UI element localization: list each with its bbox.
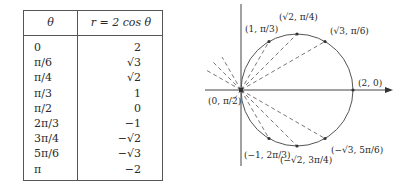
label-sqrt3-pi-6: (√3, π/6) bbox=[330, 26, 369, 36]
label-1-pi-3: (1, π/3) bbox=[245, 24, 278, 34]
label-negsqrt3-5pi-6: (−√3, 5π/6) bbox=[331, 145, 383, 155]
point-negsqrt2-3pi-4-dot bbox=[295, 144, 298, 147]
point-negsqrt3-5pi-6-dot bbox=[323, 137, 326, 140]
polar-graph: (1, π/3) (√2, π/4) (√3, π/6) (2, 0) (0, … bbox=[0, 0, 410, 189]
point-sqrt2-pi-4-dot bbox=[295, 32, 298, 35]
point-neg1-2pi-3-dot bbox=[267, 137, 270, 140]
label-sqrt2-pi-4: (√2, π/4) bbox=[279, 12, 318, 22]
axis-arrow-icon bbox=[385, 87, 393, 93]
label-negsqrt2-3pi-4: (−√2, 3π/4) bbox=[280, 155, 332, 165]
label-0-pi-2: (0, π/2) bbox=[208, 96, 241, 106]
point-2-0-dot bbox=[351, 88, 354, 91]
point-1-pi-3-dot bbox=[267, 40, 270, 43]
origin-marker bbox=[239, 88, 243, 92]
point-sqrt3-pi-6-dot bbox=[323, 40, 326, 43]
label-2-0: (2, 0) bbox=[358, 78, 382, 88]
